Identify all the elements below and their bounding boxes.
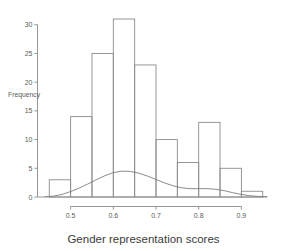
y-tick-label: 20: [25, 79, 33, 86]
histogram-bar: [177, 163, 198, 197]
histogram-figure: 051015202530 0.50.60.70.80.9 Frequency G…: [0, 0, 287, 251]
histogram-bar: [135, 65, 156, 197]
histogram-bar: [92, 53, 113, 197]
x-axis-title: Gender representation scores: [67, 233, 219, 245]
x-tick-label: 0.9: [237, 212, 247, 219]
x-tick-label: 0.8: [194, 212, 204, 219]
y-axis-title: Frequency: [8, 91, 41, 99]
y-tick-label: 0: [29, 194, 33, 201]
y-tick-label: 5: [29, 165, 33, 172]
x-axis: 0.50.60.70.80.9: [66, 207, 247, 219]
histogram-bar: [113, 19, 134, 197]
y-tick-label: 15: [25, 107, 33, 114]
histogram-bar: [220, 168, 241, 197]
y-tick-label: 10: [25, 136, 33, 143]
y-axis: 051015202530: [25, 21, 38, 200]
histogram-bar: [199, 122, 220, 197]
histogram-plot: 051015202530 0.50.60.70.80.9 Frequency G…: [0, 0, 287, 251]
histogram-bar: [156, 140, 177, 197]
x-tick-label: 0.6: [108, 212, 118, 219]
y-tick-label: 30: [25, 21, 33, 28]
x-tick-label: 0.7: [151, 212, 161, 219]
histogram-bars: [49, 19, 262, 197]
x-tick-label: 0.5: [66, 212, 76, 219]
y-tick-label: 25: [25, 50, 33, 57]
histogram-bar: [71, 117, 92, 197]
